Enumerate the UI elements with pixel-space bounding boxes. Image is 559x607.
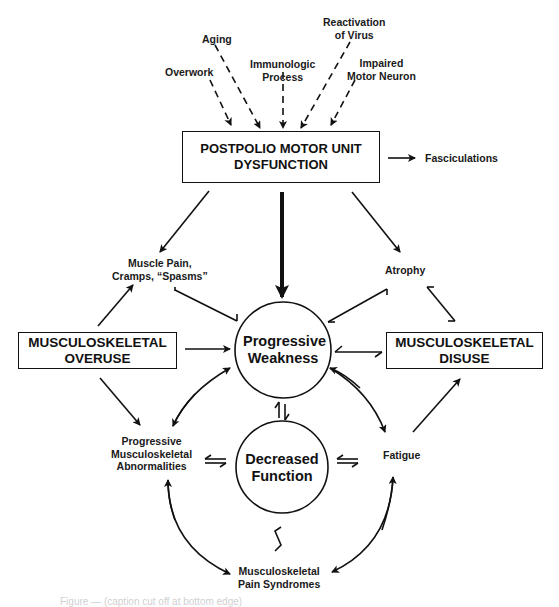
figure-caption-partial: Figure — (caption cut off at bottom edge… bbox=[60, 596, 242, 607]
musculoskeletal-overuse-box: MUSCULOSKELETAL OVERUSE bbox=[18, 332, 177, 369]
postpolio-motor-unit-dysfunction-box: POSTPOLIO MOTOR UNIT DYSFUNCTION bbox=[182, 131, 380, 183]
musculoskeletal-disuse-box: MUSCULOSKELETAL DISUSE bbox=[386, 332, 543, 369]
fasciculations-label: Fasciculations bbox=[425, 152, 498, 165]
cause-impaired-motor-neuron: Impaired Motor Neuron bbox=[347, 57, 416, 82]
fatigue-label: Fatigue bbox=[383, 449, 420, 462]
cause-immunologic: Immunologic Process bbox=[250, 58, 315, 83]
decreased-function-label: Decreased Function bbox=[242, 451, 322, 485]
cause-reactivation-of-virus: Reactivation of Virus bbox=[323, 16, 385, 41]
dashed-arrows bbox=[210, 42, 355, 128]
progressive-weakness-label: Progressive Weakness bbox=[243, 333, 323, 367]
atrophy-label: Atrophy bbox=[385, 264, 425, 277]
musculoskeletal-pain-syndromes-label: Musculoskeletal Pain Syndromes bbox=[238, 565, 320, 590]
progressive-musculoskeletal-abnormalities-label: Progressive Musculoskeletal Abnormalitie… bbox=[111, 435, 192, 473]
muscle-pain-label: Muscle Pain, Cramps, “Spasms” bbox=[112, 257, 208, 282]
cause-aging: Aging bbox=[202, 33, 232, 46]
cause-overwork: Overwork bbox=[165, 66, 213, 79]
